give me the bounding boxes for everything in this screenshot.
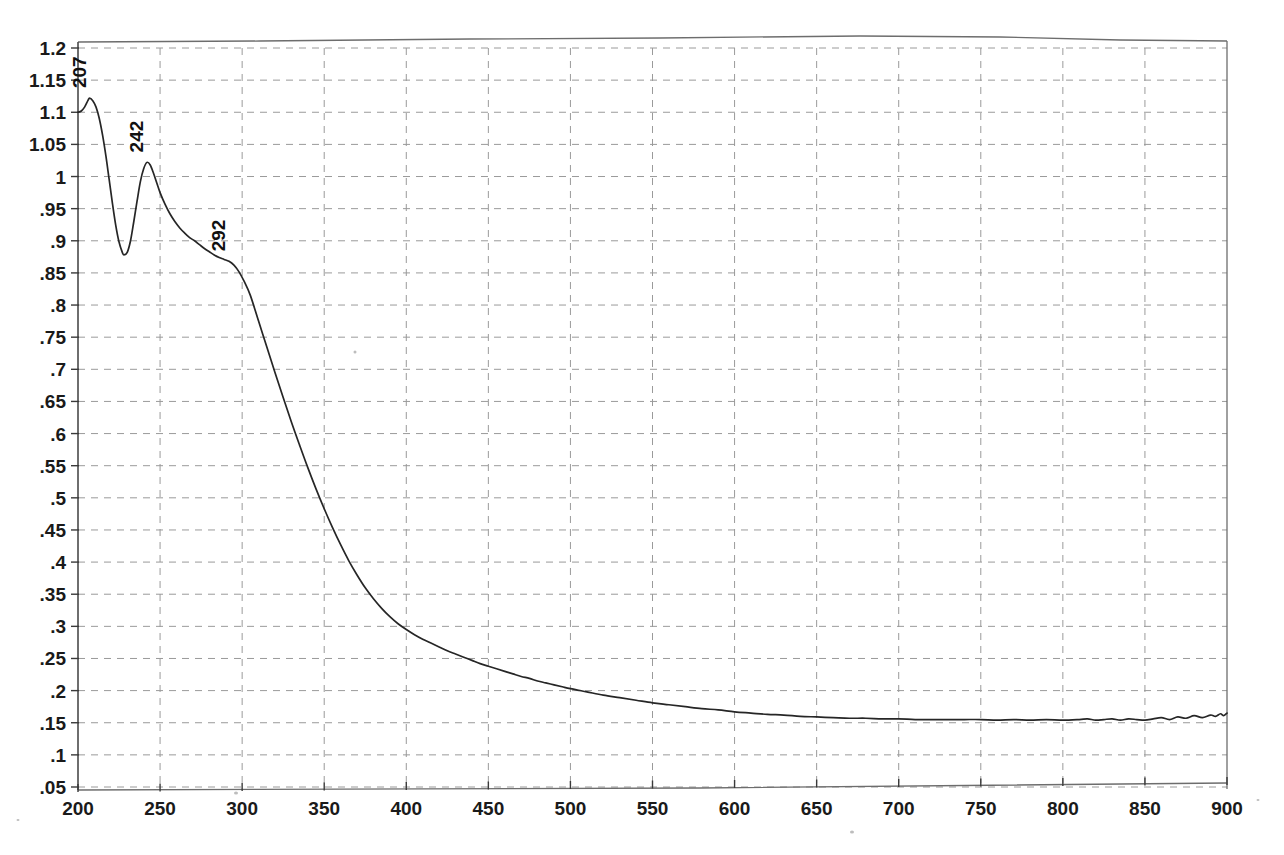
y-axis-tick-label: .15	[40, 713, 67, 734]
scan-speck	[234, 792, 238, 795]
x-axis-tick-label: 450	[473, 798, 505, 819]
y-axis-tick-label: .05	[40, 777, 67, 798]
peak-label-242: 242	[126, 121, 147, 153]
y-axis-tick-label: .5	[50, 488, 66, 509]
y-axis-tick-label: .8	[50, 295, 66, 316]
x-axis-tick-label: 700	[883, 798, 915, 819]
y-axis-tick-label: 1.05	[29, 134, 66, 155]
x-axis-tick-label: 400	[390, 798, 422, 819]
scan-speck	[354, 351, 357, 354]
plot-frame-top	[78, 36, 1227, 42]
x-axis-tick-label: 850	[1129, 798, 1161, 819]
x-axis-tick-label: 350	[308, 798, 340, 819]
y-axis-tick-label: .85	[40, 263, 67, 284]
y-axis-tick-label: .6	[50, 424, 66, 445]
y-axis-tick-labels: 1.21.151.11.051.95.9.85.8.75.7.65.6.55.5…	[29, 38, 66, 798]
peak-label-292: 292	[208, 220, 229, 252]
y-axis-tick-label: 1.15	[29, 70, 66, 91]
x-axis-tick-labels: 2002503003504004505005506006507007508008…	[62, 798, 1243, 819]
y-axis-tick-label: .3	[50, 616, 66, 637]
y-axis-tick-label: .65	[40, 391, 67, 412]
y-axis-tick-label: .45	[40, 520, 67, 541]
y-axis-tick-label: .75	[40, 327, 67, 348]
y-axis-tick-label: .55	[40, 456, 67, 477]
peak-annotation-layer: 207242292	[69, 56, 230, 251]
x-axis-tick-label: 750	[965, 798, 997, 819]
x-axis-tick-label: 900	[1211, 798, 1243, 819]
x-axis-tick-label: 550	[637, 798, 669, 819]
tick-marks	[71, 48, 1227, 792]
y-axis-tick-label: .35	[40, 584, 67, 605]
y-axis-tick-label: 1.1	[40, 102, 67, 123]
scan-speck	[850, 831, 854, 834]
x-axis-tick-label: 250	[144, 798, 176, 819]
scan-artifacts	[17, 351, 1260, 834]
x-axis-tick-label: 300	[226, 798, 258, 819]
y-axis-tick-label: .7	[50, 359, 66, 380]
peak-label-207: 207	[69, 56, 90, 88]
spectrum-plot-svg: 1.21.151.11.051.95.9.85.8.75.7.65.6.55.5…	[0, 0, 1284, 855]
y-axis-tick-label: 1	[55, 167, 66, 188]
x-axis-tick-label: 500	[555, 798, 587, 819]
uv-vis-spectrum-chart: 1.21.151.11.051.95.9.85.8.75.7.65.6.55.5…	[0, 0, 1284, 855]
x-axis-tick-label: 600	[719, 798, 751, 819]
y-axis-tick-label: .2	[50, 681, 66, 702]
y-axis-tick-label: .9	[50, 231, 66, 252]
x-axis-tick-label: 650	[801, 798, 833, 819]
scan-speck	[1257, 799, 1260, 801]
y-axis-tick-label: .25	[40, 648, 67, 669]
scan-speck	[17, 819, 20, 821]
y-axis-tick-label: .4	[50, 552, 66, 573]
grid-layer	[78, 48, 1227, 787]
x-axis-tick-label: 200	[62, 798, 94, 819]
y-axis-tick-label: 1.2	[40, 38, 66, 59]
y-axis-tick-label: .1	[50, 745, 66, 766]
y-axis-tick-label: .95	[40, 199, 67, 220]
x-axis-tick-label: 800	[1047, 798, 1079, 819]
